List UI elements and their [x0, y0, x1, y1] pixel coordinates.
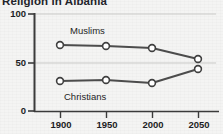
series-label-muslims: Muslims [70, 26, 105, 35]
series-line-christians [60, 69, 198, 83]
x-tick-label-1900: 1900 [41, 120, 81, 129]
data-point-christians-2050 [195, 66, 202, 73]
x-tick-label-2000: 2000 [133, 120, 173, 129]
series-line-muslims [60, 45, 198, 59]
y-tick-label-100: 100 [0, 9, 26, 18]
y-tick-label-0: 0 [0, 106, 26, 115]
chart-canvas: Religion in Albania 100 50 [0, 0, 223, 134]
data-point-christians-1950 [103, 77, 110, 84]
data-point-muslims-1900 [57, 42, 64, 49]
y-tick-label-50: 50 [0, 58, 26, 67]
data-point-christians-2000 [149, 80, 156, 87]
x-tick-label-1950: 1950 [87, 120, 127, 129]
data-point-muslims-2050 [195, 56, 202, 63]
data-point-muslims-1950 [103, 43, 110, 50]
series-label-christians: Christians [64, 92, 106, 101]
data-point-muslims-2000 [149, 45, 156, 52]
x-tick-label-2050: 2050 [179, 120, 219, 129]
line-chart-plot [0, 0, 223, 134]
data-point-christians-1900 [57, 78, 64, 85]
